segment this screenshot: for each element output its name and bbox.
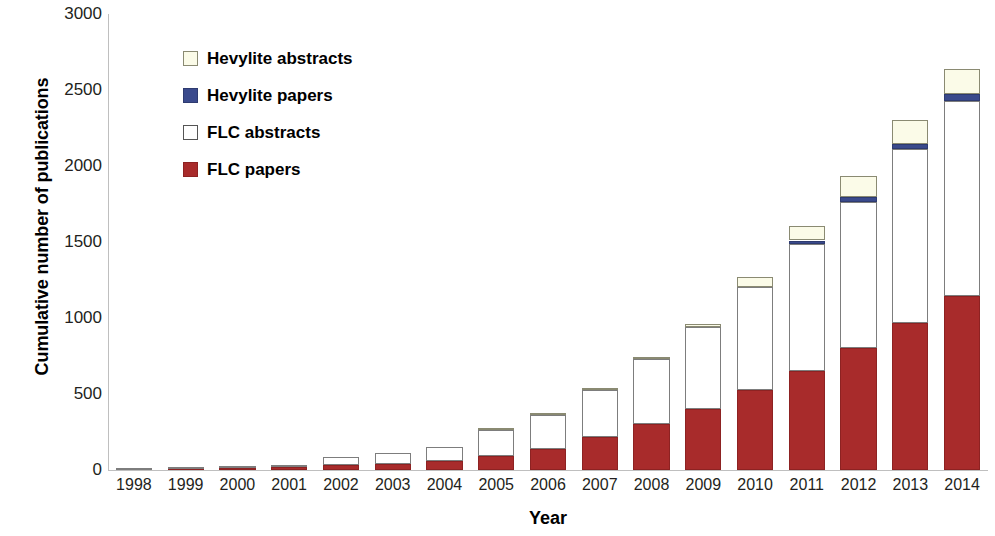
bar-group[interactable] [271, 465, 307, 470]
x-tick-label: 2000 [212, 476, 264, 494]
legend-swatch-icon [183, 125, 198, 140]
bar-segment-flc-papers [789, 371, 825, 470]
bar-group[interactable] [530, 414, 566, 470]
x-tick-label: 1999 [160, 476, 212, 494]
bar-segment-flc-abstracts [426, 447, 462, 461]
bar-group[interactable] [323, 457, 359, 470]
bar-segment-flc-abstracts [530, 415, 566, 448]
bar-segment-flc-papers [271, 467, 307, 470]
bar-segment-flc-abstracts [892, 149, 928, 323]
bar-segment-hevylite-abstracts [840, 176, 876, 197]
legend-item[interactable]: FLC papers [183, 151, 483, 188]
bar-segment-hevylite-abstracts [892, 120, 928, 144]
x-axis-tick-labels: 1998199920002001200220032004200520062007… [108, 476, 988, 504]
x-tick-label: 2013 [884, 476, 936, 494]
bar-segment-hevylite-papers [944, 94, 980, 101]
legend-label: FLC papers [207, 160, 301, 180]
bar-segment-hevylite-abstracts [633, 357, 669, 359]
bar-group[interactable] [944, 69, 980, 470]
x-tick-label: 2004 [419, 476, 471, 494]
bar-group[interactable] [633, 357, 669, 470]
legend-item[interactable]: Hevylite abstracts [183, 40, 483, 77]
x-tick-label: 2014 [936, 476, 988, 494]
bar-group[interactable] [426, 447, 462, 470]
bar-segment-flc-papers [840, 348, 876, 470]
publications-stacked-bar-chart: Cumulative number of publications 050010… [0, 0, 995, 536]
bar-segment-flc-abstracts [685, 327, 721, 409]
bar-segment-flc-abstracts [582, 390, 618, 437]
legend-item[interactable]: FLC abstracts [183, 114, 483, 151]
bar-group[interactable] [685, 324, 721, 470]
bar-segment-flc-papers [478, 456, 514, 470]
bar-segment-flc-papers [685, 409, 721, 470]
bar-segment-hevylite-abstracts [789, 226, 825, 240]
x-tick-label: 2005 [470, 476, 522, 494]
bar-segment-flc-abstracts [375, 453, 411, 464]
bar-group[interactable] [375, 453, 411, 470]
y-tick-label: 1000 [2, 308, 102, 328]
y-tick-label: 2000 [2, 156, 102, 176]
bar-segment-hevylite-papers [840, 197, 876, 201]
bar-segment-flc-papers [737, 390, 773, 470]
x-axis-line [108, 470, 988, 471]
bar-group[interactable] [789, 226, 825, 470]
bar-segment-flc-abstracts [633, 359, 669, 424]
bar-segment-flc-abstracts [219, 466, 255, 468]
bar-group[interactable] [219, 467, 255, 470]
x-tick-label: 2007 [574, 476, 626, 494]
y-tick-label: 0 [2, 460, 102, 480]
bar-segment-flc-papers [944, 296, 980, 470]
bar-segment-flc-papers [582, 437, 618, 470]
legend-swatch-icon [183, 88, 198, 103]
bar-segment-flc-papers [633, 424, 669, 470]
bar-segment-flc-abstracts [116, 468, 152, 470]
bar-segment-flc-abstracts [323, 457, 359, 465]
bar-segment-hevylite-abstracts [685, 324, 721, 327]
legend-label: Hevylite papers [207, 86, 333, 106]
bar-group[interactable] [582, 388, 618, 470]
x-tick-label: 2008 [626, 476, 678, 494]
bar-segment-hevylite-abstracts [478, 428, 514, 430]
x-tick-label: 2003 [367, 476, 419, 494]
bar-group[interactable] [840, 176, 876, 470]
bar-segment-flc-abstracts [789, 244, 825, 372]
bar-segment-flc-papers [426, 461, 462, 470]
legend-label: Hevylite abstracts [207, 49, 353, 69]
x-tick-label: 2010 [729, 476, 781, 494]
bar-group[interactable] [737, 277, 773, 470]
bar-group[interactable] [116, 469, 152, 470]
legend-swatch-icon [183, 162, 198, 177]
bar-segment-flc-papers [892, 323, 928, 470]
bar-segment-hevylite-abstracts [944, 69, 980, 94]
y-tick-label: 3000 [2, 4, 102, 24]
bar-segment-hevylite-abstracts [530, 413, 566, 415]
y-tick-label: 1500 [2, 232, 102, 252]
legend-swatch-icon [183, 51, 198, 66]
bar-segment-flc-papers [530, 449, 566, 470]
bar-segment-hevylite-abstracts [582, 388, 618, 390]
x-tick-label: 2001 [263, 476, 315, 494]
x-tick-label: 2009 [677, 476, 729, 494]
bar-segment-flc-papers [375, 464, 411, 470]
x-tick-label: 2012 [833, 476, 885, 494]
bar-segment-flc-abstracts [944, 101, 980, 296]
legend-label: FLC abstracts [207, 123, 320, 143]
bar-group[interactable] [168, 468, 204, 470]
bar-segment-hevylite-papers [892, 144, 928, 149]
bar-segment-flc-abstracts [168, 467, 204, 469]
y-tick-label: 2500 [2, 80, 102, 100]
bar-segment-flc-papers [323, 465, 359, 470]
bar-segment-hevylite-papers [789, 241, 825, 244]
bar-segment-hevylite-abstracts [737, 277, 773, 287]
legend-item[interactable]: Hevylite papers [183, 77, 483, 114]
y-tick-label: 500 [2, 384, 102, 404]
x-tick-label: 2011 [781, 476, 833, 494]
bar-group[interactable] [478, 429, 514, 470]
x-tick-label: 2006 [522, 476, 574, 494]
bar-segment-flc-abstracts [737, 287, 773, 390]
x-axis-title: Year [108, 508, 988, 529]
bar-group[interactable] [892, 120, 928, 470]
chart-legend: Hevylite abstractsHevylite papersFLC abs… [183, 40, 483, 188]
bar-segment-flc-abstracts [478, 430, 514, 457]
y-axis-tick-labels: 050010001500200025003000 [0, 0, 102, 536]
